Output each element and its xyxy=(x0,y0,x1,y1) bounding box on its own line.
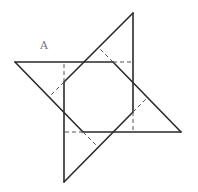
point-label-a: A xyxy=(39,39,49,52)
dashed-edge-4 xyxy=(50,82,64,96)
dashed-edge-6 xyxy=(99,48,113,62)
dashed-edge-7 xyxy=(133,98,147,112)
dashed-edge-5 xyxy=(83,132,97,146)
point-labels: A xyxy=(39,39,49,52)
geometry-diagram: A xyxy=(0,0,198,192)
